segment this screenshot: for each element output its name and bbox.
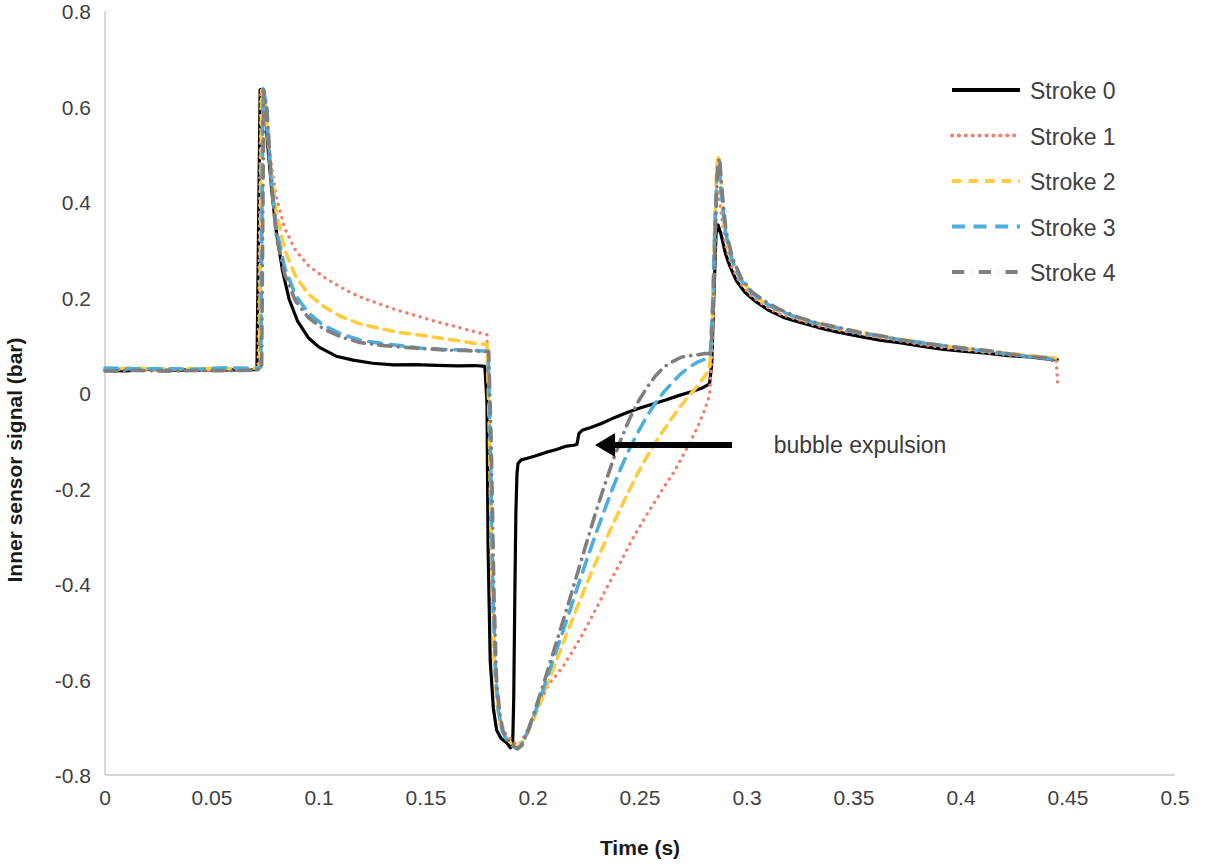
y-tick-label: 0.2 <box>62 287 91 310</box>
annotation-text: bubble expulsion <box>774 432 947 458</box>
legend-label-stroke-4[interactable]: Stroke 4 <box>1030 260 1116 286</box>
x-tick-label: 0.4 <box>946 786 976 809</box>
y-tick-label: 0.6 <box>62 96 91 119</box>
series-line-stroke-2 <box>105 90 1057 747</box>
legend-label-stroke-3[interactable]: Stroke 3 <box>1030 215 1116 241</box>
x-tick-label: 0.1 <box>304 786 333 809</box>
y-tick-label: -0.2 <box>55 478 91 501</box>
y-axis-tick-labels: 0.80.60.40.20-0.2-0.4-0.6-0.8 <box>55 0 92 787</box>
x-tick-label: 0.35 <box>834 786 875 809</box>
x-tick-label: 0 <box>99 786 111 809</box>
x-axis-tick-labels: 00.050.10.150.20.250.30.350.40.450.5 <box>99 786 1189 809</box>
x-tick-label: 0.25 <box>620 786 661 809</box>
legend-label-stroke-0[interactable]: Stroke 0 <box>1030 78 1116 104</box>
y-tick-label: 0 <box>79 382 91 405</box>
legend-label-stroke-1[interactable]: Stroke 1 <box>1030 124 1116 150</box>
series-line-stroke-1 <box>105 92 1058 745</box>
series-line-stroke-4 <box>105 90 1057 749</box>
x-tick-label: 0.5 <box>1160 786 1189 809</box>
chart-legend: Stroke 0Stroke 1Stroke 2Stroke 3Stroke 4 <box>952 78 1116 286</box>
y-tick-label: 0.8 <box>62 0 91 23</box>
annotation-arrow-head <box>595 433 615 457</box>
x-tick-label: 0.3 <box>732 786 761 809</box>
inner-sensor-signal-chart: 0.80.60.40.20-0.2-0.4-0.6-0.8 00.050.10.… <box>0 0 1210 866</box>
series-line-stroke-0 <box>105 90 1057 748</box>
chart-container: 0.80.60.40.20-0.2-0.4-0.6-0.8 00.050.10.… <box>0 0 1210 866</box>
y-tick-label: -0.6 <box>55 669 91 692</box>
series-line-stroke-3 <box>105 89 1057 749</box>
x-tick-label: 0.2 <box>518 786 547 809</box>
y-tick-label: 0.4 <box>62 191 92 214</box>
y-axis-title: Inner sensor signal (bar) <box>3 337 26 582</box>
y-tick-label: -0.4 <box>55 573 92 596</box>
x-axis-title: Time (s) <box>600 836 680 859</box>
x-tick-label: 0.05 <box>192 786 233 809</box>
y-tick-label: -0.8 <box>55 764 91 787</box>
x-tick-label: 0.15 <box>406 786 447 809</box>
legend-label-stroke-2[interactable]: Stroke 2 <box>1030 169 1116 195</box>
x-tick-label: 0.45 <box>1048 786 1089 809</box>
chart-series-group <box>105 89 1058 749</box>
